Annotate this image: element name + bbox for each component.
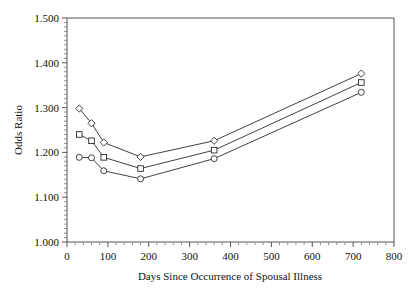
marker-diamond <box>211 137 218 144</box>
x-axis-ticks <box>67 242 394 247</box>
marker-diamond <box>100 139 107 146</box>
y-tick-label: 1.000 <box>34 236 59 248</box>
marker-square <box>138 166 144 172</box>
marker-circle <box>89 155 95 161</box>
x-tick-label: 800 <box>386 250 403 262</box>
chart-figure: 1.0001.1001.2001.3001.4001.500 010020030… <box>0 0 416 294</box>
marker-circle <box>101 168 107 174</box>
chart-canvas: 1.0001.1001.2001.3001.4001.500 010020030… <box>0 0 416 294</box>
marker-circle <box>358 89 364 95</box>
marker-circle <box>76 154 82 160</box>
y-tick-label: 1.200 <box>34 146 59 158</box>
y-tick-label: 1.500 <box>34 12 59 24</box>
plot-frame <box>67 18 394 242</box>
y-axis-tick-labels: 1.0001.1001.2001.3001.4001.500 <box>34 12 59 248</box>
marker-square <box>89 138 95 144</box>
x-tick-label: 0 <box>64 250 70 262</box>
marker-square <box>76 132 82 138</box>
y-tick-label: 1.100 <box>34 191 59 203</box>
x-tick-label: 100 <box>100 250 117 262</box>
x-tick-label: 400 <box>222 250 239 262</box>
marker-square <box>101 155 107 161</box>
data-series <box>76 70 365 182</box>
x-axis-title: Days Since Occurrence of Spousal Illness <box>138 270 322 282</box>
marker-square <box>359 80 365 86</box>
marker-circle <box>211 156 217 162</box>
x-tick-label: 200 <box>141 250 158 262</box>
series-line-circle <box>79 92 361 178</box>
x-axis-tick-labels: 0100200300400500600700800 <box>64 250 403 262</box>
x-tick-label: 700 <box>345 250 362 262</box>
y-tick-label: 1.300 <box>34 102 59 114</box>
marker-diamond <box>358 70 365 77</box>
y-tick-label: 1.400 <box>34 57 59 69</box>
marker-circle <box>138 176 144 182</box>
x-tick-label: 500 <box>263 250 280 262</box>
y-axis-title: Odds Ratio <box>12 105 24 155</box>
plot-border <box>67 18 394 242</box>
x-tick-label: 600 <box>304 250 321 262</box>
series-line-diamond <box>79 74 361 157</box>
series-square <box>76 80 364 172</box>
marker-diamond <box>137 153 144 160</box>
series-circle <box>76 89 364 181</box>
x-tick-label: 300 <box>181 250 198 262</box>
marker-square <box>211 147 217 153</box>
y-axis-ticks <box>62 18 67 242</box>
chart-title-clipped <box>0 0 416 6</box>
